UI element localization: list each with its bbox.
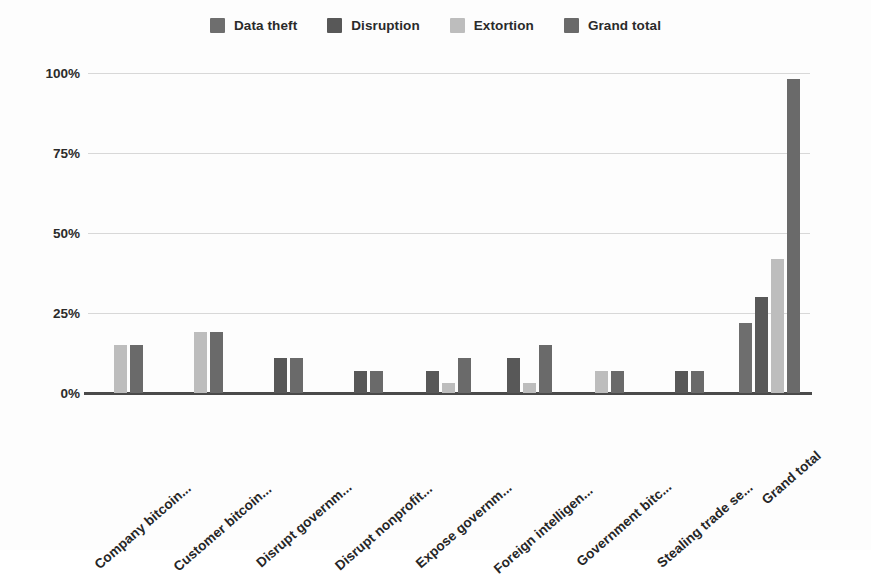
bar-group bbox=[650, 73, 730, 393]
legend-swatch-icon bbox=[210, 18, 225, 33]
bar-group bbox=[168, 73, 248, 393]
y-tick-label: 25% bbox=[53, 306, 80, 321]
bar-disruption[interactable] bbox=[426, 371, 439, 393]
bar-disruption[interactable] bbox=[507, 358, 520, 393]
bar-grand-total[interactable] bbox=[691, 371, 704, 393]
bar-group bbox=[409, 73, 489, 393]
bar-grand-total[interactable] bbox=[370, 371, 383, 393]
y-tick-label: 0% bbox=[60, 386, 80, 401]
legend-label: Extortion bbox=[474, 18, 534, 33]
bar-group bbox=[329, 73, 409, 393]
legend-swatch-icon bbox=[564, 18, 579, 33]
bar-data-theft[interactable] bbox=[739, 323, 752, 393]
x-tick-label: Grand total bbox=[759, 448, 824, 507]
bar-extortion[interactable] bbox=[114, 345, 127, 393]
bar-group bbox=[569, 73, 649, 393]
bar-extortion[interactable] bbox=[194, 332, 207, 393]
legend-label: Grand total bbox=[588, 18, 661, 33]
legend-item-grand-total[interactable]: Grand total bbox=[564, 18, 661, 33]
legend-item-disruption[interactable]: Disruption bbox=[327, 18, 420, 33]
bar-extortion[interactable] bbox=[523, 383, 536, 393]
bar-disruption[interactable] bbox=[755, 297, 768, 393]
x-axis-labels: Company bitcoin...Customer bitcoin...Dis… bbox=[88, 396, 810, 546]
bar-extortion[interactable] bbox=[442, 383, 455, 393]
legend-swatch-icon bbox=[327, 18, 342, 33]
legend-item-data-theft[interactable]: Data theft bbox=[210, 18, 297, 33]
legend-label: Data theft bbox=[234, 18, 297, 33]
bar-grand-total[interactable] bbox=[458, 358, 471, 393]
bar-grand-total[interactable] bbox=[290, 358, 303, 393]
bar-group bbox=[248, 73, 328, 393]
bar-grand-total[interactable] bbox=[130, 345, 143, 393]
bar-extortion[interactable] bbox=[771, 259, 784, 393]
bar-grand-total[interactable] bbox=[210, 332, 223, 393]
bar-grand-total[interactable] bbox=[787, 79, 800, 393]
y-tick-label: 75% bbox=[53, 146, 80, 161]
bar-group bbox=[489, 73, 569, 393]
legend-item-extortion[interactable]: Extortion bbox=[450, 18, 534, 33]
y-axis: 0%25%50%75%100% bbox=[30, 73, 80, 393]
chart-legend: Data theftDisruptionExtortionGrand total bbox=[0, 18, 871, 33]
bar-group bbox=[88, 73, 168, 393]
bar-disruption[interactable] bbox=[354, 371, 367, 393]
y-tick-label: 50% bbox=[53, 226, 80, 241]
bar-disruption[interactable] bbox=[274, 358, 287, 393]
bar-grand-total[interactable] bbox=[539, 345, 552, 393]
bar-grand-total[interactable] bbox=[611, 371, 624, 393]
bar-group bbox=[730, 73, 810, 393]
bar-disruption[interactable] bbox=[675, 371, 688, 393]
bar-extortion[interactable] bbox=[595, 371, 608, 393]
legend-swatch-icon bbox=[450, 18, 465, 33]
bars-layer bbox=[88, 73, 810, 393]
legend-label: Disruption bbox=[351, 18, 420, 33]
y-tick-label: 100% bbox=[45, 66, 80, 81]
